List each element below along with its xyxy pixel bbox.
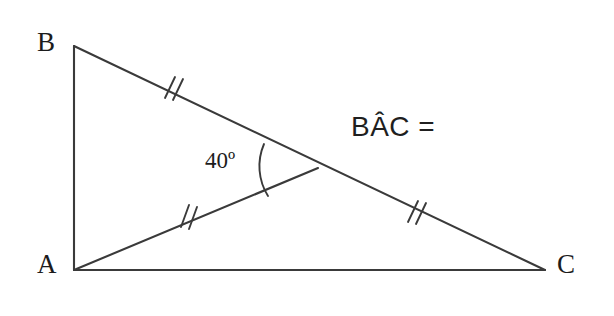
vertex-label-b: B xyxy=(37,29,55,56)
vertex-label-c: C xyxy=(557,251,575,278)
geometry-canvas xyxy=(0,0,614,316)
angle-label-40: 40º xyxy=(205,149,235,172)
angle-expression-bac: BÂC = xyxy=(351,113,435,141)
angle-arc-40-icon xyxy=(259,144,268,196)
segment-a-intersection xyxy=(74,168,318,270)
vertex-label-a: A xyxy=(37,251,57,278)
geometry-figure: B A C 40º BÂC = xyxy=(0,0,614,316)
segment-bc xyxy=(74,46,545,270)
